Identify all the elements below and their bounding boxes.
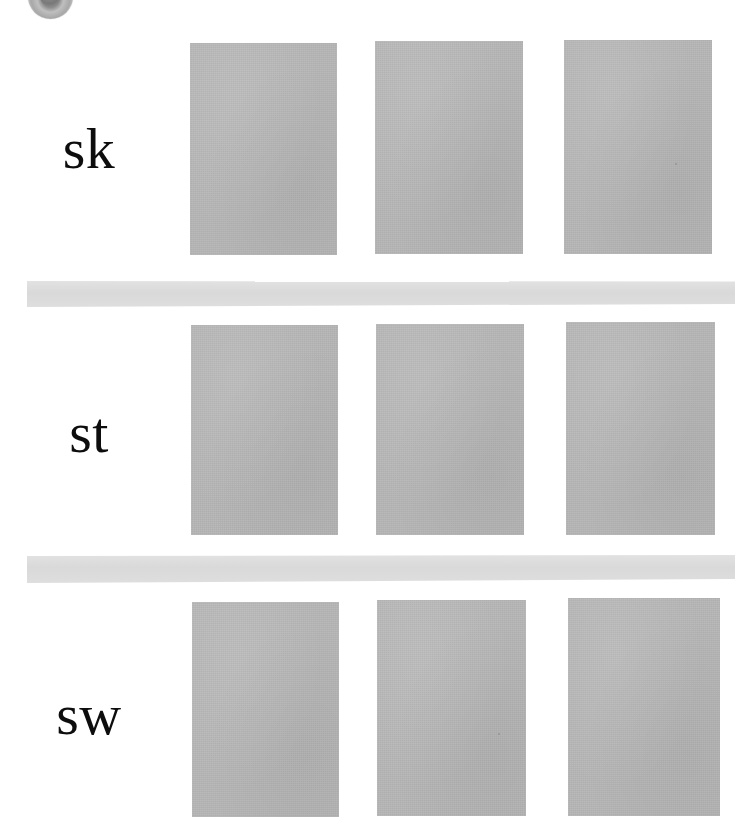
row-label-sw: sw bbox=[0, 686, 178, 744]
image-block bbox=[192, 602, 339, 817]
scan-speck bbox=[675, 163, 677, 165]
image-block bbox=[377, 600, 526, 816]
circular-seal-icon bbox=[28, 0, 73, 19]
image-block bbox=[190, 43, 337, 255]
document-page: sk st sw bbox=[0, 0, 756, 831]
row-label-sk: sk bbox=[0, 120, 178, 178]
image-block bbox=[566, 322, 715, 535]
image-block bbox=[191, 325, 338, 535]
image-block bbox=[564, 40, 712, 254]
separator-band-2 bbox=[27, 555, 735, 583]
separator-band-1 bbox=[27, 281, 735, 307]
image-block bbox=[568, 598, 720, 816]
scan-speck bbox=[498, 733, 500, 735]
image-block bbox=[376, 324, 524, 535]
row-label-st: st bbox=[0, 404, 178, 462]
image-block bbox=[375, 41, 523, 254]
